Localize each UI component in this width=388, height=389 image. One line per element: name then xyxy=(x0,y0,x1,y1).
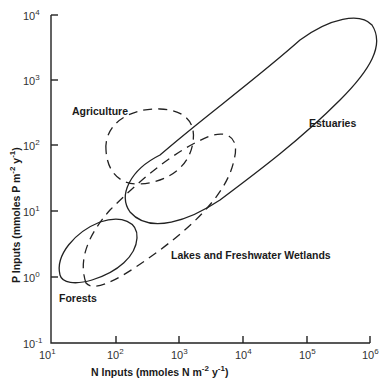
y-axis-title: P Inputs (mmoles P m-2 y-1) xyxy=(8,147,22,283)
label-lakes: Lakes and Freshwater Wetlands xyxy=(171,249,331,261)
x-axis-title: N Inputs (mmoles N m-2 y-1) xyxy=(91,364,228,378)
y-tick-1e0: 100 xyxy=(23,270,40,284)
y-tick-1e1: 101 xyxy=(23,204,40,218)
chart-canvas: 104 103 102 101 100 10-1 101 102 103 104… xyxy=(0,0,388,389)
x-tick-1e4: 104 xyxy=(235,347,252,361)
x-tick-labels: 101 102 103 104 105 106 xyxy=(39,347,379,361)
label-forests: Forests xyxy=(59,292,97,304)
y-tick-labels: 104 103 102 101 100 10-1 xyxy=(23,8,43,350)
x-tick-1e5: 105 xyxy=(299,347,316,361)
x-ticks xyxy=(116,336,370,343)
x-tick-1e3: 103 xyxy=(171,347,188,361)
label-estuaries: Estuaries xyxy=(309,117,356,129)
x-tick-1e6: 106 xyxy=(362,347,379,361)
axes-lines xyxy=(51,15,370,343)
label-agriculture: Agriculture xyxy=(72,105,128,117)
y-tick-1e-1: 10-1 xyxy=(23,336,43,350)
x-tick-1e1: 101 xyxy=(39,347,56,361)
y-tick-1e3: 103 xyxy=(23,73,40,87)
lakes-region xyxy=(83,134,235,286)
y-tick-1e4: 104 xyxy=(23,8,40,22)
y-ticks xyxy=(51,15,58,277)
y-tick-1e2: 102 xyxy=(23,138,40,152)
x-tick-1e2: 102 xyxy=(107,347,124,361)
agriculture-region xyxy=(106,109,194,184)
